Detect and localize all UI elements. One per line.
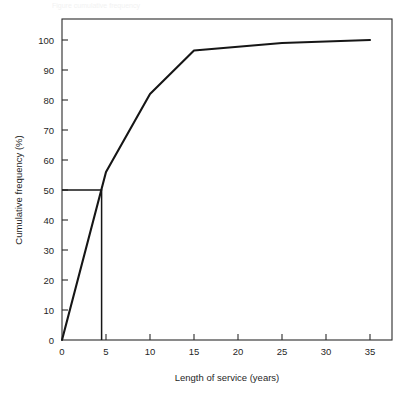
- x-tick-label: 15: [189, 346, 200, 357]
- y-tick-label: 40: [43, 215, 54, 226]
- x-tick-label: 35: [365, 346, 376, 357]
- x-tick-label: 10: [145, 346, 156, 357]
- figure-caption-ghost: Figure cumulative frequency: [52, 1, 202, 10]
- x-tick-label: 20: [233, 346, 244, 357]
- y-tick-label: 90: [43, 65, 54, 76]
- x-tick-label: 5: [103, 346, 108, 357]
- y-tick-label: 20: [43, 275, 54, 286]
- x-tick-label: 30: [321, 346, 332, 357]
- y-tick-label: 70: [43, 125, 54, 136]
- cumulative-frequency-chart: 0102030405060708090100 05101520253035 Le…: [0, 0, 407, 399]
- y-tick-label: 100: [38, 35, 54, 46]
- x-tick-label: 25: [277, 346, 288, 357]
- y-tick-label: 30: [43, 245, 54, 256]
- y-axis-title: Cumulative frequency (%): [13, 135, 24, 244]
- plot-frame: [62, 19, 392, 340]
- x-tick-label: 0: [59, 346, 64, 357]
- y-tick-label: 10: [43, 305, 54, 316]
- y-tick-label: 60: [43, 155, 54, 166]
- x-axis-title: Length of service (years): [175, 372, 280, 383]
- y-tick-label: 80: [43, 95, 54, 106]
- cumulative-frequency-figure: Figure cumulative frequency 010203040506…: [0, 0, 407, 399]
- y-tick-label: 0: [49, 335, 54, 346]
- y-tick-label: 50: [43, 185, 54, 196]
